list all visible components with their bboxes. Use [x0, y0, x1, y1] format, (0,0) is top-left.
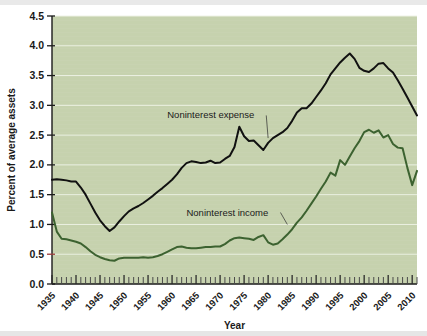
x-tick-label: 2000: [347, 290, 370, 313]
y-tick-label: 4.5: [29, 10, 44, 22]
y-tick-label: 2.5: [29, 129, 44, 141]
y-tick-label: 3.5: [29, 69, 44, 81]
x-tick-label: 1970: [203, 290, 226, 313]
x-tick-label: 1985: [275, 289, 298, 312]
x-tick-label: 1950: [107, 290, 130, 313]
line-chart: 0.00.51.01.52.02.53.03.54.04.51935194019…: [0, 0, 427, 336]
y-axis-ticks: 0.00.51.01.52.02.53.03.54.04.5: [29, 10, 55, 290]
x-tick-label: 1940: [59, 290, 82, 313]
x-tick-label: 1990: [299, 290, 322, 313]
y-tick-label: 0.5: [29, 248, 44, 260]
y-tick-label: 4.0: [29, 39, 44, 51]
x-tick-label: 1935: [35, 289, 58, 312]
x-tick-label: 1965: [179, 289, 202, 312]
x-tick-label: 1960: [155, 290, 178, 313]
y-tick-label: 1.5: [29, 188, 44, 200]
x-axis-title: Year: [224, 320, 245, 331]
x-tick-label: 1980: [251, 290, 274, 313]
x-tick-label: 1975: [227, 289, 250, 312]
x-tick-label: 1955: [131, 289, 154, 312]
x-tick-label: 1995: [323, 289, 346, 312]
y-tick-label: 0.0: [29, 278, 44, 290]
x-tick-label: 1945: [83, 289, 106, 312]
y-tick-label: 2.0: [29, 158, 44, 170]
y-tick-label: 1.0: [29, 218, 44, 230]
series-label-noninterest-expense: Noninterest expense: [167, 109, 254, 120]
top-border-band: [0, 0, 427, 5]
x-tick-label: 2010: [395, 290, 418, 313]
bottom-border-band: [0, 331, 427, 336]
x-axis-labels: 1935194019451950195519601965197019751980…: [35, 289, 418, 312]
series-label-noninterest-income: Noninterest income: [186, 207, 268, 218]
chart-figure: 0.00.51.01.52.02.53.03.54.04.51935194019…: [0, 0, 427, 336]
y-tick-label: 3.0: [29, 99, 44, 111]
y-axis-title: Percent of average assets: [6, 88, 17, 212]
x-tick-label: 2005: [371, 289, 394, 312]
